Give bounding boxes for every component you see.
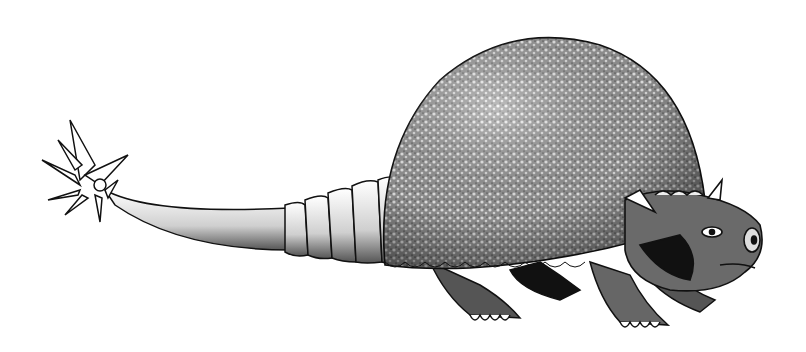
tail (105, 177, 400, 264)
tail-rings (285, 177, 400, 264)
head (625, 180, 762, 291)
glyptodont-illustration (0, 0, 806, 352)
tail-club (42, 120, 128, 222)
illustration-canvas (0, 0, 806, 352)
